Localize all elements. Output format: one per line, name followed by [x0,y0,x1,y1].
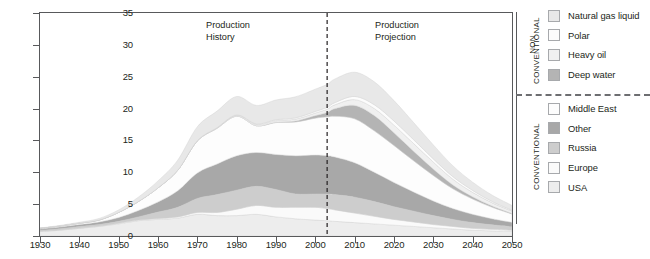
legend-item-natural-gas-liquid[interactable]: Natural gas liquid [548,6,640,26]
legend-item-label: Europe [568,162,598,173]
y-axis-tick-mark [33,140,39,141]
annotation-projection-line2: Projection [375,32,419,44]
x-axis-tick-mark [237,237,238,243]
y-axis-tick-mark [33,236,39,237]
y-axis-tick-label: 25 [107,72,133,81]
legend-item-label: Other [568,123,591,134]
legend-item-heavy-oil[interactable]: Heavy oil [548,45,640,65]
legend-item-middle-east[interactable]: Middle East [548,99,616,119]
legend-item-label: Middle East [568,103,616,114]
y-axis-tick-mark [33,204,39,205]
legend-item-label: Russia [568,142,596,153]
legend-swatch-icon [548,69,560,81]
legend-item-label: Deep water [568,69,615,80]
legend-item-usa[interactable]: USA [548,177,616,197]
annotation-history-line1: Production [206,20,250,32]
legend-swatch-icon [548,122,560,134]
legend: NON CONVENTIONAL Natural gas liquidPolar… [516,0,650,259]
annotation-production-history: Production History [206,20,250,43]
y-axis-tick-mark [33,13,39,14]
legend-swatch-icon [548,49,560,61]
legend-item-label: Natural gas liquid [568,10,640,21]
y-axis-tick-mark [33,45,39,46]
legend-bracket-nonconventional [516,12,517,94]
legend-items-nonconventional: Natural gas liquidPolarHeavy oilDeep wat… [548,6,640,84]
legend-swatch-icon [548,103,560,115]
y-axis-tick-label: 30 [107,40,133,49]
legend-bracket-conventional [516,96,517,224]
x-axis-tick-mark [79,237,80,243]
x-axis-tick-mark [40,237,41,243]
x-axis-tick-mark [473,237,474,243]
annotation-production-projection: Production Projection [375,20,419,43]
y-axis-tick-mark [33,109,39,110]
legend-item-russia[interactable]: Russia [548,138,616,158]
legend-item-label: USA [568,182,587,193]
x-axis-tick-mark [276,237,277,243]
y-axis-tick-mark [33,172,39,173]
y-axis-tick-label: 10 [107,167,133,176]
legend-swatch-icon [548,10,560,22]
x-axis-tick-mark [158,237,159,243]
legend-items-conventional: Middle EastOtherRussiaEuropeUSA [548,99,616,197]
y-axis-tick-label: 5 [107,199,133,208]
legend-item-europe[interactable]: Europe [548,158,616,178]
x-axis-tick-mark [197,237,198,243]
x-axis-tick-mark [119,237,120,243]
y-axis-tick-mark [33,77,39,78]
annotation-history-line2: History [206,32,250,44]
y-axis-tick-label: 35 [107,8,133,17]
legend-item-other[interactable]: Other [548,119,616,139]
x-axis-tick-mark [433,237,434,243]
legend-item-polar[interactable]: Polar [548,26,640,46]
y-axis-tick-label: 15 [107,135,133,144]
legend-group-title-nonconventional: CONVENTIONAL [532,10,541,92]
legend-swatch-icon [548,29,560,41]
legend-item-deep-water[interactable]: Deep water [548,65,640,85]
oil-production-chart-figure: Billion barrels per year 05101520253035 … [0,0,650,259]
legend-group-title-conventional: CONVENTIONAL [532,111,541,203]
x-axis-tick-mark [394,237,395,243]
annotation-projection-line1: Production [375,20,419,32]
y-axis-tick-label: 20 [107,104,133,113]
legend-item-label: Heavy oil [568,49,606,60]
x-axis-tick-mark [512,237,513,243]
legend-item-label: Polar [568,30,590,41]
x-axis-tick-mark [315,237,316,243]
legend-group-divider [516,94,650,96]
x-axis-tick-mark [355,237,356,243]
legend-swatch-icon [548,142,560,154]
legend-swatch-icon [548,181,560,193]
legend-swatch-icon [548,162,560,174]
